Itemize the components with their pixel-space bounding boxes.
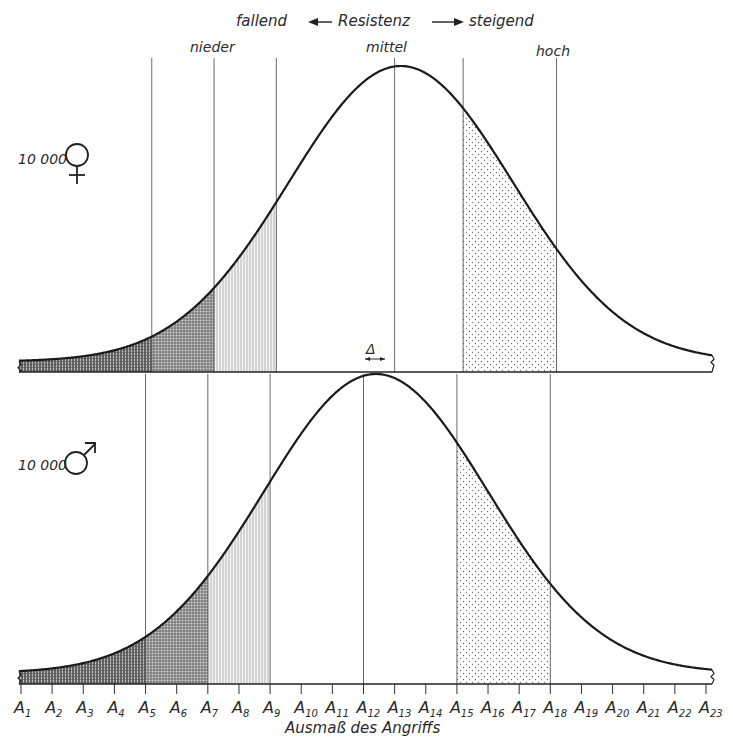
female-symbol-icon	[66, 144, 88, 184]
female-count-label: 10 000	[18, 151, 67, 167]
x-tick-label: A17	[511, 698, 536, 719]
x-tick-label: A7	[200, 698, 219, 719]
female-panel	[18, 58, 714, 372]
x-tick-label: A10	[293, 698, 318, 719]
arrow-left-icon	[308, 18, 332, 26]
x-tick-label: A13	[387, 698, 412, 719]
title-fallend: fallend	[236, 12, 288, 30]
shaded-region-dense-vertical-hatch	[19, 637, 146, 684]
shaded-region-dots	[463, 108, 556, 372]
title-resistenz: Resistenz	[338, 12, 411, 30]
break-mark-right	[711, 355, 714, 372]
male-symbol-icon	[65, 443, 95, 474]
x-tick-label: A22	[667, 698, 692, 719]
distribution-curve-female	[19, 66, 712, 361]
x-tick-label: A18	[542, 698, 567, 719]
male-panel	[18, 374, 714, 684]
x-tick-label: A20	[605, 698, 630, 719]
x-tick-label: A12	[356, 698, 381, 719]
distribution-curve-male	[19, 374, 712, 671]
arrow-right-icon	[432, 18, 464, 26]
x-tick-label: A14	[418, 698, 443, 719]
x-tick-label: A6	[169, 698, 187, 719]
x-tick-label: A16	[480, 698, 505, 719]
x-tick-label: A15	[449, 698, 474, 719]
x-tick-label: A2	[44, 698, 62, 719]
x-tick-label: A4	[106, 698, 124, 719]
break-mark-right	[711, 670, 714, 684]
zone-label-mittel: mittel	[366, 39, 407, 55]
delta-span-icon	[365, 357, 385, 361]
x-tick-label: A19	[573, 698, 598, 719]
x-tick-label: A3	[75, 698, 93, 719]
x-tick-label: A11	[324, 698, 349, 719]
x-tick-label: A23	[698, 698, 723, 719]
shaded-region-dots	[457, 443, 550, 684]
delta-label: Δ	[365, 341, 376, 357]
x-tick-label: A21	[636, 698, 661, 719]
title-steigend: steigend	[469, 12, 534, 30]
shaded-region-light-vertical-hatch	[214, 202, 276, 372]
x-tick-label: A5	[138, 698, 156, 719]
shaded-region-light-vertical-hatch	[208, 482, 270, 684]
x-tick-label: A8	[231, 698, 249, 719]
male-count-label: 10 000	[18, 457, 67, 473]
shaded-region-cross-hatch	[152, 288, 214, 372]
x-tick-label: A1	[13, 698, 31, 719]
resistance-diagram: A1A2A3A4A5A6A7A8A9A10A11A12A13A14A15A16A…	[0, 0, 733, 753]
x-axis-ticks: A1A2A3A4A5A6A7A8A9A10A11A12A13A14A15A16A…	[13, 684, 723, 719]
zone-label-hoch: hoch	[536, 43, 570, 59]
x-axis-title: Ausmaß des Angriffs	[284, 719, 440, 737]
shaded-region-dense-vertical-hatch	[19, 337, 152, 372]
x-tick-label: A9	[262, 698, 280, 719]
zone-label-nieder: nieder	[190, 39, 236, 55]
